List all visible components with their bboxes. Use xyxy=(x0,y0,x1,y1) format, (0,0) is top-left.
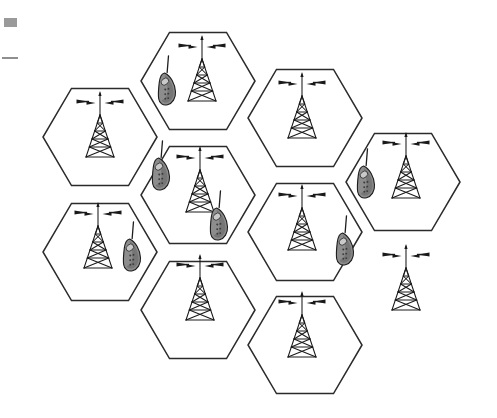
hex-cell-9 xyxy=(248,296,362,393)
base-station-10-tower-icon xyxy=(383,244,430,310)
cellular-network-diagram xyxy=(0,0,497,418)
scan-artifact-block xyxy=(4,18,17,27)
hex-cell-canvas xyxy=(0,0,497,418)
hex-cell-3 xyxy=(248,69,362,166)
scan-artifact-line xyxy=(2,57,18,59)
hex-cell-layer xyxy=(43,32,460,393)
